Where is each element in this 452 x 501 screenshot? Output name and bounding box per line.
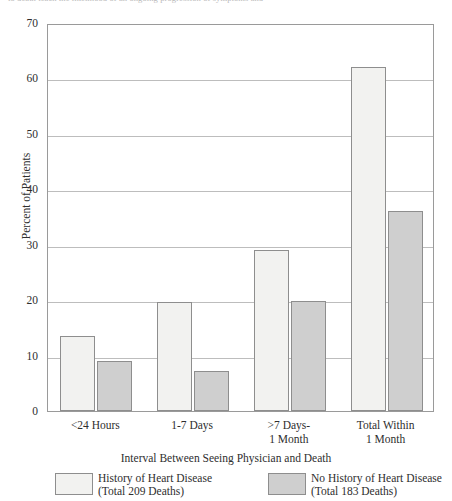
x-axis-tick-line: <24 Hours [47, 418, 144, 432]
plot-area [47, 24, 434, 412]
bar [194, 371, 229, 411]
y-axis-tick: 0 [8, 405, 38, 417]
y-axis-tick: 70 [8, 17, 38, 29]
legend-series-sublabel: (Total 209 Deaths) [98, 485, 212, 498]
bar [60, 336, 95, 411]
legend-label: History of Heart Disease(Total 209 Death… [98, 472, 212, 498]
x-axis-tick: 1-7 Days [144, 418, 241, 432]
legend-label: No History of Heart Disease(Total 183 De… [311, 472, 442, 498]
legend-series-name: No History of Heart Disease [311, 472, 442, 485]
bar [254, 250, 289, 411]
x-axis-tick-line: >7 Days- [241, 418, 338, 432]
y-axis-tick: 60 [8, 72, 38, 84]
y-axis-tick: 10 [8, 350, 38, 362]
x-axis-tick: <24 Hours [47, 418, 144, 432]
x-axis-tick-line: 1 Month [337, 432, 434, 446]
bar [291, 301, 326, 411]
legend-entry: No History of Heart Disease(Total 183 De… [268, 472, 442, 498]
legend-swatch [268, 473, 306, 495]
bar [351, 67, 386, 411]
x-axis-tick-line: 1-7 Days [144, 418, 241, 432]
x-axis-tick: >7 Days-1 Month [241, 418, 338, 446]
bar [97, 361, 132, 411]
x-axis-tick-line: Total Within [337, 418, 434, 432]
legend-series-name: History of Heart Disease [98, 472, 212, 485]
chart-legend: History of Heart Disease(Total 209 Death… [0, 470, 452, 500]
legend-swatch [55, 473, 93, 495]
legend-entry: History of Heart Disease(Total 209 Death… [55, 472, 212, 498]
bar-chart-figure: 010203040506070 Percent of Patients <24 … [0, 0, 452, 501]
y-axis-tick: 20 [8, 294, 38, 306]
y-axis-title: Percent of Patients [20, 126, 32, 266]
x-axis-tick: Total Within1 Month [337, 418, 434, 446]
bar [157, 302, 192, 411]
x-axis-title: Interval Between Seeing Physician and De… [0, 452, 452, 464]
legend-series-sublabel: (Total 183 Deaths) [311, 485, 442, 498]
bar [388, 211, 423, 411]
x-axis-tick-line: 1 Month [241, 432, 338, 446]
